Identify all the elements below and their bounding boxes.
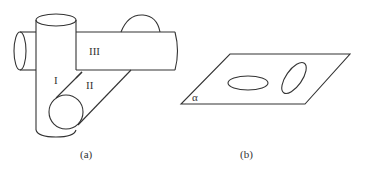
figure-a: I II III (a) bbox=[14, 14, 178, 161]
ellipse-right bbox=[277, 59, 311, 98]
ellipse-left bbox=[228, 76, 268, 90]
figure-b: α (b) bbox=[181, 54, 350, 161]
plane-label: α bbox=[192, 91, 198, 103]
caption-b: (b) bbox=[240, 148, 253, 161]
region-label-2: II bbox=[86, 79, 94, 91]
figure-canvas: I II III (a) α (b) bbox=[0, 0, 365, 171]
region-label-1: I bbox=[54, 74, 58, 86]
caption-a: (a) bbox=[80, 148, 93, 161]
region-label-3: III bbox=[89, 45, 100, 57]
